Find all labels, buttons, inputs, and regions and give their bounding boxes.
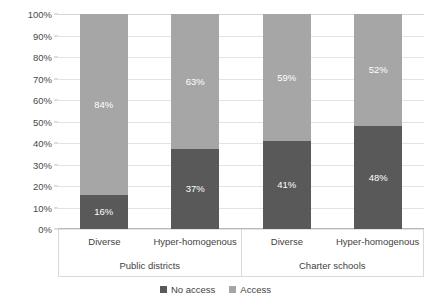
legend-item[interactable]: Access [229,284,271,295]
bar-segment-label: 84% [94,100,113,110]
legend-swatch-icon [229,286,236,293]
bar-segment-no-access[interactable]: 37% [171,149,219,229]
bar[interactable]: 52%48% [354,14,402,229]
category-axis: DiverseHyper-homogenousDiverseHyper-homo… [58,229,424,277]
y-axis-tick-label: 100% [28,9,52,20]
y-axis-tick-label: 50% [33,116,52,127]
legend-swatch-icon [160,286,167,293]
y-axis-tick-mark [54,164,58,165]
stacked-bar-chart: 0%10%20%30%40%50%60%70%80%90%100%84%16%6… [0,0,431,303]
chart-legend: No accessAccess [0,284,431,295]
y-axis-tick-label: 20% [33,181,52,192]
y-axis-tick-mark [54,14,58,15]
bar-segment-label: 16% [94,207,113,217]
category-label: Hyper-homogenous [332,229,423,253]
y-axis-tick-label: 40% [33,138,52,149]
legend-item[interactable]: No access [160,284,215,295]
category-label: Diverse [241,229,333,253]
bar-segment-no-access[interactable]: 16% [80,195,128,229]
group-label: Charter schools [241,253,424,277]
bar-segment-label: 48% [369,173,388,183]
y-axis-tick-mark [54,100,58,101]
y-axis-tick-mark [54,57,58,58]
bar-segment-access[interactable]: 59% [263,14,311,141]
y-axis-tick-label: 0% [38,224,52,235]
bar-segment-label: 59% [277,73,296,83]
category-axis-level-1: DiverseHyper-homogenousDiverseHyper-homo… [59,229,423,253]
category-label: Diverse [59,229,150,253]
plot-area: 0%10%20%30%40%50%60%70%80%90%100%84%16%6… [58,14,424,229]
bar-segment-access[interactable]: 84% [80,14,128,195]
bar-segment-access[interactable]: 52% [354,14,402,126]
bar-segment-label: 63% [186,77,205,87]
y-axis-tick-label: 90% [33,30,52,41]
legend-label: No access [171,284,215,295]
chart-title-clipped [0,0,431,4]
y-axis-tick-mark [54,78,58,79]
y-axis-tick-label: 80% [33,52,52,63]
y-axis-tick-label: 30% [33,159,52,170]
y-axis-tick-mark [54,121,58,122]
bar-segment-label: 52% [369,65,388,75]
bar-segment-no-access[interactable]: 48% [354,126,402,229]
bar-segment-label: 41% [277,180,296,190]
y-axis-tick-mark [54,186,58,187]
group-label: Public districts [59,253,241,277]
bar[interactable]: 84%16% [80,14,128,229]
bar[interactable]: 59%41% [263,14,311,229]
bar[interactable]: 63%37% [171,14,219,229]
category-label: Hyper-homogenous [150,229,241,253]
category-axis-level-2: Public districtsCharter schools [59,253,423,277]
y-axis-tick-label: 10% [33,202,52,213]
bar-segment-access[interactable]: 63% [171,14,219,149]
y-axis-tick-mark [54,143,58,144]
bar-segment-label: 37% [186,184,205,194]
legend-label: Access [240,284,271,295]
y-axis-tick-mark [54,35,58,36]
y-axis-tick-label: 70% [33,73,52,84]
bar-segment-no-access[interactable]: 41% [263,141,311,229]
y-axis-tick-mark [54,207,58,208]
y-axis-tick-label: 60% [33,95,52,106]
